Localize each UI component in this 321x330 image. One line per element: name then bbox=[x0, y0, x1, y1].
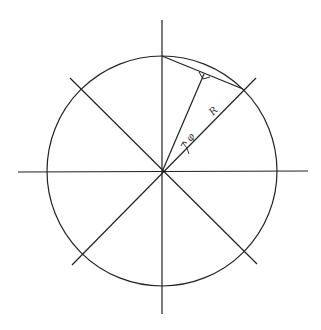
angle-label: φ bbox=[184, 131, 197, 143]
chord bbox=[162, 56, 243, 89]
perpendicular-line bbox=[162, 74, 204, 172]
circle-diagram: R φ bbox=[0, 0, 321, 330]
